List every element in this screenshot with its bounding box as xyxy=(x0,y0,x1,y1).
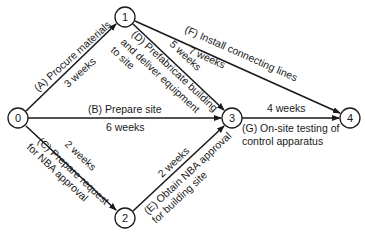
node-1: 1 xyxy=(115,7,135,27)
edge-a xyxy=(26,24,116,111)
node-2: 2 xyxy=(115,208,135,228)
node-2-label: 2 xyxy=(122,212,128,224)
activity-g-name-line1: (G) On-site testing of xyxy=(242,122,340,134)
node-0-label: 0 xyxy=(15,112,21,124)
node-4: 4 xyxy=(340,108,360,128)
activity-g-name-line2: control apparatus xyxy=(242,135,323,147)
node-0: 0 xyxy=(8,108,28,128)
node-1-label: 1 xyxy=(122,11,128,23)
activity-b-duration: 6 weeks xyxy=(106,121,145,133)
activity-b-name: (B) Prepare site xyxy=(88,103,162,115)
node-4-label: 4 xyxy=(347,112,353,124)
node-3: 3 xyxy=(222,108,242,128)
network-diagram: (A) Procure materials 3 weeks (B) Prepar… xyxy=(0,0,365,235)
node-3-label: 3 xyxy=(229,112,235,124)
activity-e-name-line1: (E) Obtain NBA approval xyxy=(141,129,233,216)
activity-g-duration: 4 weeks xyxy=(267,102,306,114)
